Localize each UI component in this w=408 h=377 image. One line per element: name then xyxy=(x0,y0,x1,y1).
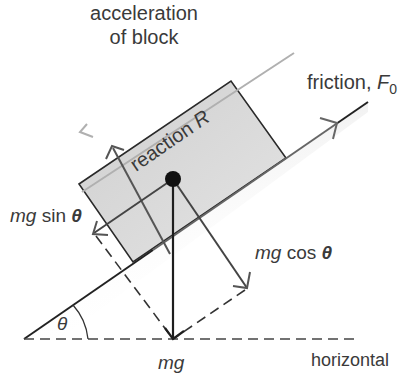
inclined-plane-diagram: θ acceleration of block friction, F0 rea… xyxy=(0,0,408,377)
incline-line xyxy=(24,250,153,339)
centre-of-mass-dot xyxy=(165,171,181,187)
friction-subscript: 0 xyxy=(389,81,397,97)
mg-cos-theta: θ xyxy=(322,242,333,263)
acceleration-label-line1: acceleration xyxy=(90,2,198,24)
mg-sin-label: mg sin θ xyxy=(10,205,82,226)
mg-sin-fn: sin xyxy=(36,205,71,226)
horizontal-label: horizontal xyxy=(311,350,389,370)
mg-sin-theta: θ xyxy=(71,205,82,226)
friction-label: friction, F0 xyxy=(307,71,397,97)
mg-arrowhead-icon xyxy=(165,328,184,339)
mg-label: mg xyxy=(158,352,185,373)
mg-cos-mg: mg xyxy=(255,242,282,263)
acceleration-arrowhead-icon xyxy=(80,124,93,137)
mg-cos-fn: cos xyxy=(281,242,321,263)
angle-label: θ xyxy=(57,313,68,334)
mg-sin-mg: mg xyxy=(10,205,37,226)
mg-cos-label: mg cos θ xyxy=(255,242,333,263)
acceleration-label-line2: of block xyxy=(110,26,180,48)
friction-text: friction, xyxy=(307,71,377,93)
